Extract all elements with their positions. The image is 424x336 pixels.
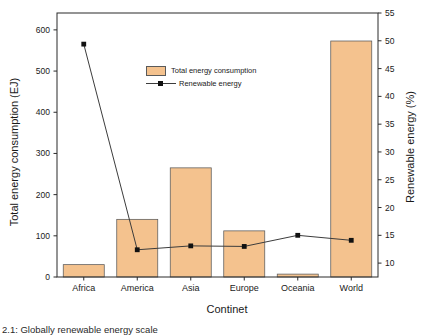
right-tick-label: 45 (385, 64, 395, 74)
legend-bar-label: Total energy consumption (171, 66, 256, 75)
bar-africa (63, 265, 104, 277)
right-tick-label: 35 (385, 119, 395, 129)
left-tick-label: 300 (36, 148, 50, 158)
x-tick-label-africa: Africa (72, 283, 95, 293)
x-axis-label: Continet (62, 303, 392, 315)
x-tick-label-world: World (340, 283, 363, 293)
x-tick-label-oceania: Oceania (281, 283, 315, 293)
y-axis-label-right: Renewable energy (%) (404, 91, 416, 203)
legend: Total energy consumption Renewable energ… (146, 64, 256, 90)
left-tick-label: 200 (36, 190, 50, 200)
legend-bar-swatch (146, 66, 166, 76)
right-tick-label: 40 (385, 91, 395, 101)
legend-entry-bar: Total energy consumption (146, 64, 256, 77)
left-tick-label: 100 (36, 231, 50, 241)
right-tick-label: 55 (385, 8, 395, 18)
right-tick-label: 30 (385, 147, 395, 157)
left-tick-label: 400 (36, 107, 50, 117)
plot-border (57, 13, 378, 277)
figure-caption: 2.1: Globally renewable energy scale (2, 324, 158, 336)
left-tick-label: 600 (36, 25, 50, 35)
right-tick-label: 10 (385, 258, 395, 268)
x-tick-label-america: America (121, 283, 154, 293)
marker-oceania (295, 233, 300, 238)
marker-asia (188, 243, 193, 248)
left-tick-label: 500 (36, 66, 50, 76)
y-axis-label-left: Total energy consumption (EJ) (8, 78, 20, 227)
x-tick-label-asia: Asia (182, 283, 200, 293)
bar-europe (224, 231, 265, 277)
right-tick-label: 25 (385, 175, 395, 185)
marker-america (135, 247, 140, 252)
legend-entry-line: Renewable energy (146, 77, 256, 90)
legend-line-marker-icon (146, 79, 176, 88)
marker-world (349, 238, 354, 243)
legend-line-label: Renewable energy (179, 79, 242, 88)
right-tick-label: 15 (385, 230, 395, 240)
right-tick-label: 20 (385, 203, 395, 213)
x-tick-label-europe: Europe (230, 283, 259, 293)
marker-africa (81, 42, 86, 47)
left-tick-label: 0 (45, 272, 50, 282)
marker-europe (242, 244, 247, 249)
chart-canvas: 010020030040050060010152025303540455055A… (0, 0, 424, 321)
right-tick-label: 50 (385, 36, 395, 46)
bar-asia (170, 168, 211, 277)
